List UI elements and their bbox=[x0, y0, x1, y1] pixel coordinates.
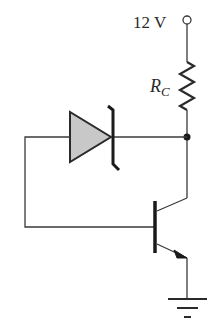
emitter-arrow-icon bbox=[174, 250, 187, 258]
circuit-diagram: 12 V RC bbox=[0, 0, 217, 325]
supply-label: 12 V bbox=[133, 13, 167, 32]
supply-terminal bbox=[183, 16, 191, 24]
transistor-collector bbox=[157, 198, 187, 211]
ground-icon bbox=[168, 299, 207, 317]
resistor-label: RC bbox=[149, 76, 170, 99]
zener-diode-icon bbox=[70, 112, 111, 162]
resistor-icon bbox=[180, 62, 194, 110]
